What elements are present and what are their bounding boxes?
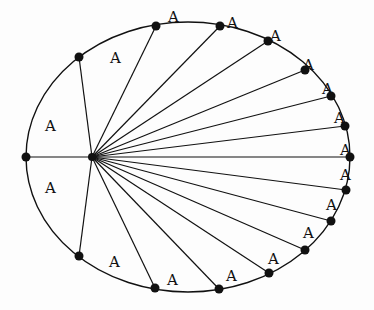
radius-line [92,96,331,157]
diagram-canvas: AAAAAAAAAAAAAAAAA [0,0,374,310]
area-label: A [321,80,333,98]
area-label: A [269,27,281,45]
area-label: A [108,253,120,271]
area-label: A [302,56,314,74]
orbit-point [22,153,31,162]
orbit-point [327,217,336,226]
area-label: A [167,8,179,26]
area-label: A [225,267,237,285]
focus-point [88,153,96,161]
orbit-point [75,53,84,62]
area-label: A [109,49,121,67]
orbit-point [215,285,224,294]
orbit-point [216,22,225,31]
area-label: A [166,271,178,289]
orbit-point [265,269,274,278]
radius-line [92,26,220,157]
area-label: A [44,117,56,135]
kepler-equal-area-diagram: AAAAAAAAAAAAAAAAA [0,0,374,310]
orbit-point [342,186,351,195]
radius-line [79,57,92,157]
orbit-point [75,252,84,261]
area-label: A [267,250,279,268]
area-label: A [226,14,238,32]
orbit-point [301,246,310,255]
area-label: A [302,224,314,242]
orbit-point [152,22,161,31]
orbit-point [151,284,160,293]
area-label: A [333,109,345,127]
radius-line [92,157,155,288]
radius-line [92,26,156,157]
radius-line [79,157,92,256]
area-label: A [339,166,351,184]
area-label: A [44,179,56,197]
area-label: A [339,141,351,159]
area-label: A [325,196,337,214]
radius-line [92,157,331,221]
